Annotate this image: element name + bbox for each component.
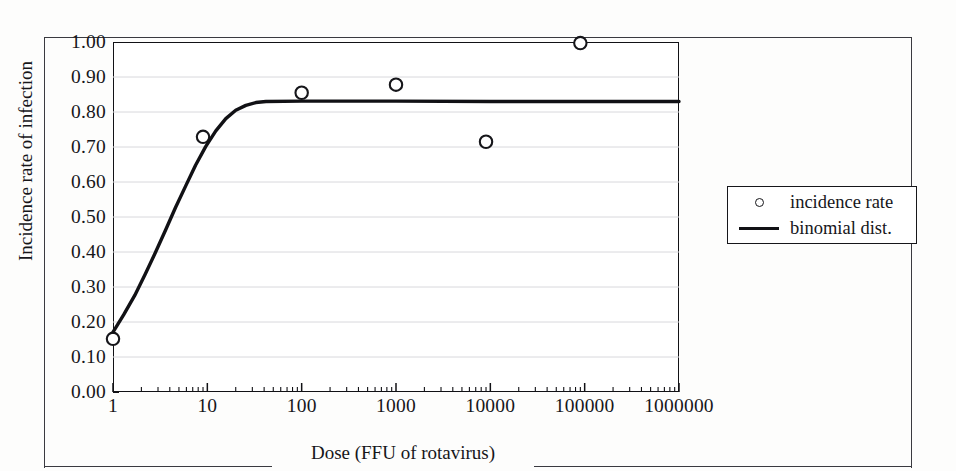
legend-entry-incidence-rate: incidence rate — [728, 189, 916, 216]
y-tick-label: 1.00 — [71, 32, 106, 52]
x-tick-label: 100 — [287, 396, 317, 416]
y-tick-label: 0.10 — [71, 347, 106, 367]
line-swatch-icon — [728, 227, 790, 230]
figure-outer-frame-bottom-left — [44, 466, 272, 467]
x-tick-label: 1 — [108, 396, 118, 416]
y-tick-mark — [113, 392, 119, 393]
y-tick-label: 0.90 — [71, 67, 106, 87]
plot-canvas — [113, 42, 679, 392]
legend-entry-binomial-dist: binomial dist. — [728, 215, 916, 242]
x-axis-tick-labels: 1101001000100001000001000000 — [113, 396, 679, 424]
y-axis-tick-labels: 0.000.100.200.300.400.500.600.700.800.90… — [20, 42, 106, 392]
x-tick-label: 10 — [197, 396, 217, 416]
x-axis-title: Dose (FFU of rotavirus) — [278, 442, 528, 464]
figure-container: Incidence rate of infection 0.000.100.20… — [0, 0, 956, 471]
legend-label-binomial-dist: binomial dist. — [790, 219, 892, 238]
legend-label-incidence-rate: incidence rate — [790, 193, 893, 212]
y-tick-label: 0.30 — [71, 277, 106, 297]
y-tick-label: 0.70 — [71, 137, 106, 157]
x-tick-label: 1000 — [376, 396, 416, 416]
x-tick-label: 1000000 — [644, 396, 714, 416]
open-circle-icon — [728, 198, 790, 207]
y-tick-label: 0.00 — [71, 382, 106, 402]
plot-area — [113, 42, 679, 392]
figure-outer-frame-bottom-right — [534, 466, 912, 467]
y-tick-label: 0.20 — [71, 312, 106, 332]
y-tick-label: 0.50 — [71, 207, 106, 227]
x-tick-label: 100000 — [555, 396, 615, 416]
chart-legend: incidence rate binomial dist. — [727, 186, 917, 244]
x-tick-label: 10000 — [465, 396, 515, 416]
y-tick-label: 0.80 — [71, 102, 106, 122]
y-tick-label: 0.40 — [71, 242, 106, 262]
y-tick-label: 0.60 — [71, 172, 106, 192]
